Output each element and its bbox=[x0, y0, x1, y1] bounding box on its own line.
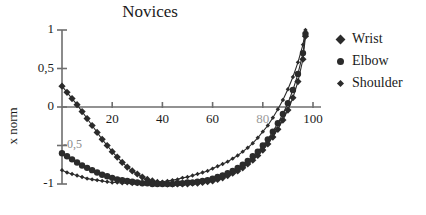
legend-item-shoulder: Shoulder bbox=[332, 72, 403, 94]
data-point bbox=[94, 129, 101, 136]
y-tick-label: -1 bbox=[28, 175, 54, 191]
y-tick-label: 0 bbox=[28, 98, 54, 114]
x-tick-label: 100 bbox=[296, 111, 330, 127]
data-point bbox=[105, 179, 109, 183]
legend-item-wrist: Wrist bbox=[332, 28, 403, 50]
legend-item-elbow: Elbow bbox=[332, 50, 403, 72]
y-tick-label: -0,5 bbox=[56, 137, 82, 152]
data-point bbox=[286, 87, 290, 91]
axes bbox=[57, 30, 321, 184]
data-point bbox=[84, 115, 91, 122]
data-point bbox=[190, 173, 194, 177]
data-point bbox=[250, 153, 256, 159]
circle-marker-icon bbox=[332, 58, 348, 65]
data-point bbox=[240, 162, 246, 168]
x-tick-label: 80 bbox=[246, 111, 280, 127]
data-point bbox=[280, 111, 286, 117]
data-point bbox=[180, 176, 184, 180]
data-point bbox=[78, 108, 85, 115]
data-point bbox=[75, 173, 79, 177]
diamond-small-marker-icon bbox=[332, 81, 348, 86]
series-elbow bbox=[59, 31, 309, 188]
chart-figure: Novices x norm 10,50-0,5-120406080100 Wr… bbox=[0, 0, 426, 215]
y-tick-label: 0,5 bbox=[28, 60, 54, 76]
data-point bbox=[110, 180, 114, 184]
chart-legend: WristElbowShoulder bbox=[332, 28, 403, 94]
data-point bbox=[200, 170, 204, 174]
data-point bbox=[291, 75, 295, 79]
legend-label: Elbow bbox=[352, 53, 389, 69]
data-point bbox=[195, 172, 199, 176]
data-point bbox=[270, 128, 276, 134]
legend-label: Shoulder bbox=[352, 75, 403, 91]
data-point bbox=[245, 158, 251, 164]
data-point bbox=[295, 71, 301, 77]
diamond-marker-icon bbox=[332, 36, 348, 43]
data-point bbox=[70, 172, 74, 176]
x-tick-label: 40 bbox=[145, 111, 179, 127]
data-point bbox=[65, 170, 69, 174]
data-point bbox=[220, 162, 224, 166]
data-point bbox=[296, 60, 300, 64]
data-point bbox=[215, 164, 219, 168]
data-point bbox=[85, 176, 89, 180]
x-tick-label: 60 bbox=[196, 111, 230, 127]
data-point bbox=[210, 166, 214, 170]
data-point bbox=[100, 179, 104, 183]
data-point bbox=[95, 178, 99, 182]
y-tick-label: 1 bbox=[28, 21, 54, 37]
x-tick-label: 20 bbox=[95, 111, 129, 127]
legend-label: Wrist bbox=[352, 31, 383, 47]
data-point bbox=[290, 87, 296, 93]
data-point bbox=[281, 98, 285, 102]
data-point bbox=[185, 175, 189, 179]
data-point bbox=[260, 142, 266, 148]
series-line bbox=[62, 34, 305, 184]
data-point bbox=[80, 175, 84, 179]
data-point bbox=[60, 168, 64, 172]
data-point bbox=[90, 177, 94, 181]
data-point bbox=[255, 148, 261, 154]
data-point bbox=[285, 100, 291, 106]
data-point bbox=[205, 169, 209, 173]
data-point bbox=[265, 136, 271, 142]
